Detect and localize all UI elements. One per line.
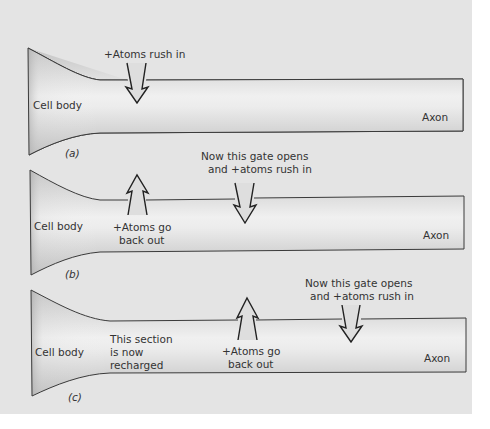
arrow-out-icon (127, 175, 148, 215)
recharged-note: recharged (110, 359, 163, 371)
annotation-text: Now this gate opens (201, 150, 308, 162)
annotation-text: and +atoms rush in (208, 163, 312, 175)
neuron-diagram: +Atoms rush in Cell body Axon (a) Now th… (0, 0, 490, 429)
panel-a: +Atoms rush in Cell body Axon (a) (28, 48, 463, 159)
annotation-text: +Atoms go (113, 221, 171, 233)
annotation-text: Now this gate opens (305, 277, 412, 289)
panel-b: Now this gate opens and +atoms rush in C… (30, 150, 464, 280)
panel-caption: (a) (65, 147, 80, 159)
panel-caption: (b) (65, 268, 80, 280)
panel-c: Now this gate opens and +atoms rush in C… (31, 277, 466, 403)
axon-label: Axon (423, 229, 449, 241)
recharged-note: is now (110, 346, 144, 358)
annotation-text: and +atoms rush in (310, 290, 414, 302)
annotation-text: back out (228, 358, 274, 370)
cell-body-label: Cell body (34, 220, 83, 232)
recharged-note: This section (109, 333, 173, 345)
arrow-out-icon (237, 298, 258, 340)
cell-body-label: Cell body (33, 99, 82, 111)
panel-caption: (c) (68, 391, 82, 403)
axon-label: Axon (422, 111, 448, 123)
axon-label: Axon (424, 352, 450, 364)
annotation-text: +Atoms go (222, 345, 280, 357)
annotation-text: +Atoms rush in (104, 48, 185, 60)
cell-body-label: Cell body (35, 346, 84, 358)
annotation-text: back out (119, 234, 165, 246)
